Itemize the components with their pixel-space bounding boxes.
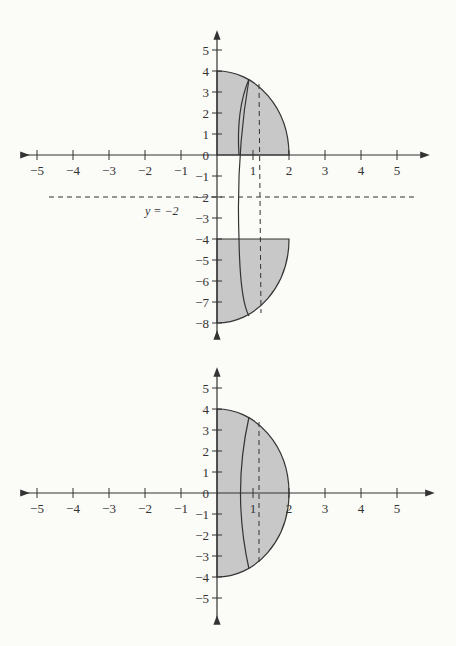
x-tick-label: 1 xyxy=(250,163,257,178)
x-tick-label: 4 xyxy=(358,501,365,516)
y-tick-label: −8 xyxy=(195,316,209,331)
y-tick-label: −1 xyxy=(195,169,209,184)
x-tick-label: 4 xyxy=(358,163,365,178)
y-tick-label: −5 xyxy=(195,591,209,606)
y-tick-label: 5 xyxy=(203,381,210,396)
x-tick-label: 5 xyxy=(394,163,401,178)
y-tick-label: 2 xyxy=(203,444,210,459)
top-upper-shaded-region xyxy=(217,71,289,155)
y-tick-label: −6 xyxy=(195,274,209,289)
bottom-graph: −5 −4 −3 −2 −1 1 2 3 4 5 5 4 3 2 1 0 −1 xyxy=(25,372,430,620)
x-tick-label: −3 xyxy=(102,501,116,516)
x-tick-label: −5 xyxy=(30,163,44,178)
y-tick-label: −1 xyxy=(195,507,209,522)
x-tick-label: 2 xyxy=(286,501,293,516)
y-tick-label: 4 xyxy=(203,64,210,79)
y-tick-label: −3 xyxy=(195,211,209,226)
y-tick-label: −4 xyxy=(195,570,209,585)
y-tick-label: −7 xyxy=(195,295,209,310)
x-tick-label: 1 xyxy=(250,501,257,516)
y-tick-label: 0 xyxy=(203,486,210,501)
x-tick-label: −2 xyxy=(138,501,152,516)
x-tick-label: −4 xyxy=(66,501,80,516)
y-tick-label: 5 xyxy=(203,43,210,58)
x-tick-label: −3 xyxy=(102,163,116,178)
x-tick-label: −1 xyxy=(174,163,188,178)
top-graph: −5 −4 −3 −2 −1 1 2 3 4 5 5 4 3 2 1 0 xyxy=(25,35,425,335)
figure: −5 −4 −3 −2 −1 1 2 3 4 5 5 4 3 2 1 0 xyxy=(0,0,456,646)
y-tick-label: −5 xyxy=(195,253,209,268)
x-tick-label: −4 xyxy=(66,163,80,178)
y-tick-label: −4 xyxy=(195,232,209,247)
y-tick-label: 2 xyxy=(203,106,210,121)
y-tick-label: −2 xyxy=(195,528,209,543)
x-tick-label: −2 xyxy=(138,163,152,178)
y-tick-label: 0 xyxy=(203,148,210,163)
x-tick-label: −1 xyxy=(174,501,188,516)
y-tick-label: −2 xyxy=(195,190,209,205)
y-tick-label: −3 xyxy=(195,549,209,564)
x-tick-label: 2 xyxy=(286,163,293,178)
y-tick-label: 1 xyxy=(203,127,210,142)
x-tick-label: −5 xyxy=(30,501,44,516)
y-tick-label: 3 xyxy=(203,423,210,438)
line-label-y-neg2: y = −2 xyxy=(144,204,179,218)
y-tick-label: 3 xyxy=(203,85,210,100)
x-tick-label: 5 xyxy=(394,501,401,516)
x-tick-label: 3 xyxy=(322,163,329,178)
y-tick-label: 4 xyxy=(203,402,210,417)
x-tick-label: 3 xyxy=(322,501,329,516)
y-tick-label: 1 xyxy=(203,465,210,480)
top-lower-shaded-region xyxy=(217,239,289,323)
